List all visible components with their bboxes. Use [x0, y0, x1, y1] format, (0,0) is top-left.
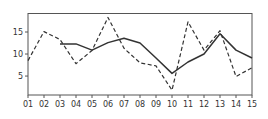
x-tick-label: 11 — [183, 100, 193, 109]
x-tick-label: 14 — [231, 100, 241, 109]
x-tick-label: 09 — [151, 100, 161, 109]
plot-frame — [28, 14, 252, 96]
line-chart: 51015 010203040506070809101112131415 — [0, 0, 268, 119]
x-tick-label: 03 — [55, 100, 65, 109]
data-series — [28, 18, 252, 91]
x-tick-label: 08 — [135, 100, 145, 109]
x-tick-label: 10 — [167, 100, 177, 109]
x-tick-label: 15 — [247, 100, 257, 109]
x-tick-label: 01 — [23, 100, 33, 109]
y-tick-label: 10 — [13, 50, 23, 59]
x-axis-ticks: 010203040506070809101112131415 — [23, 95, 257, 109]
x-tick-label: 06 — [103, 100, 113, 109]
x-tick-label: 13 — [215, 100, 225, 109]
y-tick-label: 15 — [13, 28, 23, 37]
x-tick-label: 04 — [71, 100, 81, 109]
x-tick-label: 02 — [39, 100, 49, 109]
series-line-dashed — [28, 18, 252, 91]
x-tick-label: 05 — [87, 100, 97, 109]
y-tick-label: 5 — [18, 72, 23, 81]
series-line-solid — [60, 34, 252, 74]
x-tick-label: 07 — [119, 100, 129, 109]
x-tick-label: 12 — [199, 100, 209, 109]
y-axis-ticks: 51015 — [13, 28, 28, 81]
